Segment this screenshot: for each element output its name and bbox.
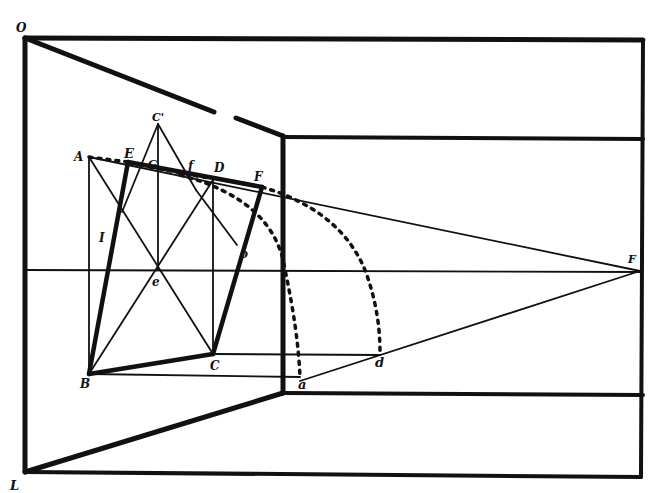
- label-I: I: [98, 231, 105, 245]
- label-e: e: [152, 275, 160, 289]
- label-C-prime: C': [152, 111, 164, 124]
- thick-edges: [89, 162, 262, 374]
- label-F: F: [253, 170, 264, 184]
- label-A: A: [73, 150, 83, 164]
- outer-frame: [25, 38, 643, 477]
- label-d: d: [375, 355, 384, 370]
- label-o: o: [240, 247, 248, 261]
- label-f: f: [187, 159, 195, 173]
- label-G: G: [148, 158, 157, 171]
- label-E: E: [123, 146, 135, 161]
- label-B: B: [79, 377, 90, 391]
- label-C: C: [210, 359, 220, 373]
- wall-edges: [25, 38, 643, 472]
- horizon-line: [25, 270, 643, 272]
- label-D: D: [213, 161, 225, 175]
- label-vanishing-point: F: [627, 253, 637, 266]
- labels: O L A E C' G f D F I e o B C a d F: [9, 21, 637, 493]
- label-L: L: [9, 478, 19, 493]
- perspective-diagram: O L A E C' G f D F I e o B C a d F: [0, 0, 661, 493]
- label-O: O: [16, 21, 27, 35]
- dotted-arcs: [89, 157, 380, 377]
- label-a: a: [298, 377, 306, 392]
